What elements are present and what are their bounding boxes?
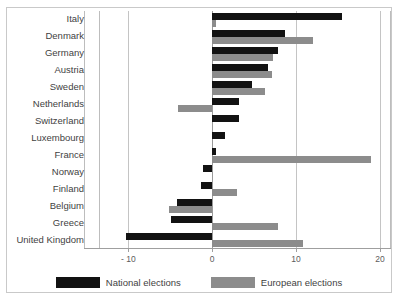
bar-european xyxy=(212,37,313,44)
bar-european xyxy=(212,20,216,27)
chart-page: ItalyDenmarkGermanyAustriaSwedenNetherla… xyxy=(0,0,398,304)
bar-national xyxy=(212,148,215,155)
category-label: United Kingdom xyxy=(16,235,84,245)
legend-label: National elections xyxy=(106,277,181,288)
bar-national xyxy=(171,216,212,223)
legend-swatch-icon xyxy=(56,277,100,288)
category-label: Switzerland xyxy=(35,116,84,126)
x-tick-label: 10 xyxy=(291,254,300,264)
category-label: Greece xyxy=(53,218,84,228)
bar-national xyxy=(126,233,212,240)
category-label: Luxembourg xyxy=(31,133,84,143)
category-label: Netherlands xyxy=(33,99,84,109)
bar-national xyxy=(201,182,212,189)
bar-national xyxy=(212,13,342,20)
bar-european xyxy=(169,206,213,213)
category-label: Norway xyxy=(52,167,84,177)
gridline xyxy=(296,11,297,248)
legend-item[interactable]: National elections xyxy=(56,277,181,288)
bar-european xyxy=(212,156,370,163)
bar-national xyxy=(212,81,252,88)
gridline xyxy=(128,11,129,248)
x-tick-mark xyxy=(296,248,297,252)
x-tick-mark xyxy=(128,248,129,252)
x-tick-label: 0 xyxy=(210,254,215,264)
category-label: Denmark xyxy=(45,31,84,41)
bar-european xyxy=(212,240,303,247)
category-label: Germany xyxy=(45,48,84,58)
bar-european xyxy=(178,105,212,112)
category-label: Italy xyxy=(67,14,84,24)
bar-national xyxy=(212,132,225,139)
x-tick-mark xyxy=(212,248,213,252)
bar-european xyxy=(212,54,273,61)
category-label: France xyxy=(54,150,84,160)
category-label: Austria xyxy=(54,65,84,75)
category-label: Belgium xyxy=(50,201,84,211)
bar-national xyxy=(212,64,268,71)
x-tick-mark xyxy=(380,248,381,252)
x-axis-line xyxy=(84,248,391,249)
category-axis-labels: ItalyDenmarkGermanyAustriaSwedenNetherla… xyxy=(8,11,84,248)
plot-right-border xyxy=(390,11,391,248)
legend-item[interactable]: European elections xyxy=(211,277,342,288)
bar-national xyxy=(212,30,285,37)
bar-european xyxy=(212,189,237,196)
category-label: Sweden xyxy=(50,82,84,92)
gridline xyxy=(380,11,381,248)
label-column-divider-left xyxy=(84,11,85,248)
bar-european xyxy=(212,71,272,78)
bar-national xyxy=(177,199,212,206)
legend-label: European elections xyxy=(261,277,342,288)
chart-legend: National electionsEuropean elections xyxy=(0,277,398,288)
legend-swatch-icon xyxy=(211,277,255,288)
x-tick-label: - 10 xyxy=(121,254,136,264)
bar-national xyxy=(212,47,278,54)
bar-national xyxy=(212,115,239,122)
plot-area xyxy=(99,11,390,248)
category-label: Finland xyxy=(53,184,84,194)
bar-european xyxy=(212,88,265,95)
bar-european xyxy=(212,223,277,230)
x-tick-label: 20 xyxy=(375,254,384,264)
bar-national xyxy=(212,98,239,105)
bar-national xyxy=(203,165,212,172)
